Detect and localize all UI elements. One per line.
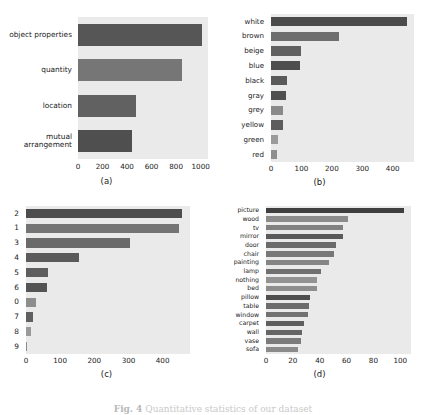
y-tick-label: location <box>2 88 72 124</box>
y-tick-label: 2 <box>2 206 19 221</box>
bar <box>266 312 308 317</box>
bar <box>271 61 300 70</box>
bar-row <box>26 310 190 325</box>
y-tick-label: brown <box>215 29 264 44</box>
y-tick-label: yellow <box>215 118 264 133</box>
x-tick-label: 400 <box>120 162 134 171</box>
y-tick-label: lamp <box>215 267 259 276</box>
y-tick-label: chair <box>215 250 259 259</box>
y-tick-label: mutual arrangement <box>2 124 72 160</box>
panel-a: object propertiesquantitylocationmutual … <box>0 0 213 195</box>
bar <box>266 295 310 300</box>
y-tick-label: tv <box>215 223 259 232</box>
y-tick-label: bed <box>215 284 259 293</box>
bar <box>266 208 404 213</box>
bar-row <box>78 124 208 160</box>
panel-b-caption: (b) <box>213 177 426 187</box>
x-tick-label: 200 <box>87 356 101 365</box>
bar-row <box>271 29 414 44</box>
x-tick-label: 20 <box>288 356 297 365</box>
y-tick-label: beige <box>215 44 264 59</box>
y-tick-label: picture <box>215 206 259 215</box>
panel-a-x-axis: 02004006008001000 <box>78 162 208 176</box>
y-tick-label: vase <box>215 337 259 346</box>
bar <box>266 321 304 326</box>
x-tick-label: 600 <box>145 162 159 171</box>
bar-row <box>271 44 414 59</box>
x-tick-label: 40 <box>315 356 324 365</box>
panel-d-plot-area <box>266 206 411 354</box>
y-tick-label: object properties <box>2 17 72 53</box>
bar <box>266 330 302 335</box>
bar <box>266 303 309 308</box>
x-tick-label: 100 <box>295 164 309 173</box>
bar-row <box>266 206 411 215</box>
y-tick-label: quantity <box>2 53 72 89</box>
panel-c-x-axis: 0100200300400 <box>26 356 190 370</box>
bar <box>266 269 321 274</box>
y-tick-label: 9 <box>2 339 19 354</box>
bar-row <box>266 337 411 346</box>
bar-row <box>271 147 414 162</box>
bar-row <box>26 250 190 265</box>
panel-d-caption: (d) <box>213 369 426 379</box>
bar-row <box>266 250 411 259</box>
bar-row <box>266 223 411 232</box>
bar <box>26 327 31 336</box>
panel-d-bars <box>266 206 411 354</box>
y-tick-label: sofa <box>215 345 259 354</box>
bar <box>26 283 47 292</box>
bar-row <box>271 14 414 29</box>
bar-row <box>266 267 411 276</box>
y-tick-label: blue <box>215 58 264 73</box>
bar-row <box>271 88 414 103</box>
bar-row <box>266 215 411 224</box>
bar <box>26 224 179 233</box>
panel-d: picturewoodtvmirrordoorchairpaintinglamp… <box>213 195 426 390</box>
bar <box>78 24 202 46</box>
y-tick-label: table <box>215 302 259 311</box>
bar-row <box>266 276 411 285</box>
panel-b: whitebrownbeigeblueblackgraygreyyellowgr… <box>213 0 426 195</box>
y-tick-label: door <box>215 241 259 250</box>
x-tick-label: 100 <box>53 356 67 365</box>
panel-a-bars <box>78 17 208 159</box>
x-tick-label: 0 <box>269 164 274 173</box>
x-tick-label: 80 <box>369 356 378 365</box>
bar-row <box>266 328 411 337</box>
y-tick-label: window <box>215 310 259 319</box>
y-tick-label: 8 <box>2 324 19 339</box>
y-tick-label: wall <box>215 328 259 337</box>
y-tick-label: black <box>215 73 264 88</box>
bar <box>26 342 27 351</box>
panel-d-x-axis: 020406080100 <box>266 356 411 370</box>
y-tick-label: red <box>215 147 264 162</box>
bar-row <box>266 310 411 319</box>
bar <box>78 59 182 81</box>
bar <box>78 95 136 117</box>
y-tick-label: 7 <box>2 310 19 325</box>
bar-row <box>271 118 414 133</box>
bar-row <box>266 302 411 311</box>
bar <box>266 242 336 247</box>
y-tick-label: green <box>215 132 264 147</box>
panel-a-caption: (a) <box>0 176 213 186</box>
y-tick-label: 3 <box>2 236 19 251</box>
y-tick-label: 4 <box>2 250 19 265</box>
bar <box>26 298 36 307</box>
x-tick-label: 0 <box>264 356 269 365</box>
bar <box>271 135 278 144</box>
y-tick-label: gray <box>215 88 264 103</box>
panel-a-y-axis-labels: object propertiesquantitylocationmutual … <box>2 17 76 159</box>
bar <box>26 238 130 247</box>
bar-row <box>266 258 411 267</box>
bar <box>271 17 407 26</box>
bar <box>271 150 277 159</box>
panel-c-plot-area <box>26 206 190 354</box>
bar <box>271 46 301 55</box>
bar-row <box>266 232 411 241</box>
panel-b-bars <box>271 14 414 162</box>
bar <box>26 312 33 321</box>
panel-a-plot-area <box>78 17 208 159</box>
panel-c-bars <box>26 206 190 354</box>
